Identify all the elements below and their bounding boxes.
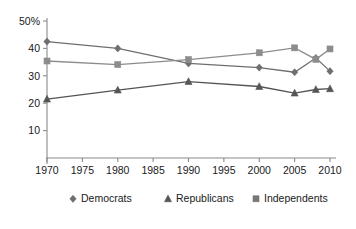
data-series-group	[44, 38, 334, 102]
data-point-marker	[44, 58, 50, 64]
data-point-marker	[327, 46, 333, 52]
y-axis-tick-label: 10	[28, 124, 40, 136]
legend-item-democrats: Democrats	[70, 192, 132, 204]
data-point-marker	[186, 57, 192, 63]
y-axis-tick-label: 30	[28, 70, 40, 82]
legend-marker-icon	[253, 196, 259, 202]
chart-legend: DemocratsRepublicansIndependents	[70, 192, 328, 204]
series-republicans	[44, 78, 334, 102]
x-axis-tick-label: 2005	[283, 164, 307, 176]
data-point-marker	[313, 56, 319, 62]
legend-label: Independents	[264, 192, 328, 204]
x-axis-tick-label: 1995	[212, 164, 236, 176]
data-point-marker	[256, 50, 262, 56]
data-point-marker	[292, 45, 298, 51]
y-axis: 1020304050%	[19, 15, 47, 164]
legend-item-independents: Independents	[253, 192, 328, 204]
x-axis-tick-label: 1975	[71, 164, 95, 176]
x-axis-tick-label: 1990	[177, 164, 201, 176]
x-axis-tick-label: 1985	[141, 164, 165, 176]
legend-marker-icon	[165, 195, 172, 202]
x-axis-tick-label: 1980	[106, 164, 130, 176]
x-axis: 197019751980198519901995200020052010	[35, 158, 342, 176]
x-axis-tick-label: 2010	[318, 164, 342, 176]
legend-item-republicans: Republicans	[165, 192, 234, 204]
x-axis-tick-label: 2000	[248, 164, 272, 176]
data-point-marker	[115, 62, 121, 68]
y-axis-tick-label: 20	[28, 97, 40, 109]
plot-area: 1020304050% 1970197519801985199019952000…	[19, 15, 342, 176]
chart-canvas: 1020304050% 1970197519801985199019952000…	[0, 0, 356, 229]
y-axis-tick-label: 40	[28, 42, 40, 54]
y-axis-tick-label: 50%	[19, 15, 40, 27]
legend-label: Democrats	[81, 192, 132, 204]
data-point-marker	[44, 38, 50, 45]
legend-label: Republicans	[176, 192, 234, 204]
data-point-marker	[291, 69, 297, 76]
line-chart: 1020304050% 1970197519801985199019952000…	[0, 0, 356, 229]
x-axis-tick-label: 1970	[35, 164, 59, 176]
data-point-marker	[115, 45, 121, 52]
legend-marker-icon	[70, 195, 76, 202]
data-point-marker	[256, 64, 262, 71]
